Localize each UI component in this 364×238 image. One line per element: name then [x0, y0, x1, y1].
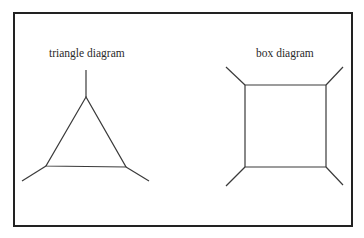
external-leg-line	[326, 167, 343, 185]
external-leg-line	[226, 67, 245, 85]
external-leg-line	[22, 166, 46, 181]
external-leg-line	[326, 67, 343, 85]
box-diagram-label: box diagram	[256, 48, 314, 60]
triangle-shape	[46, 97, 126, 167]
triangle-diagram	[22, 70, 149, 181]
external-leg-line	[126, 167, 149, 181]
outer-frame	[14, 13, 352, 226]
box-diagram	[226, 67, 343, 186]
triangle-diagram-label: triangle diagram	[49, 48, 125, 60]
triangle-external-legs	[22, 70, 149, 181]
external-leg-line	[226, 167, 245, 186]
box-shape	[245, 85, 326, 167]
diagram-canvas	[0, 0, 364, 238]
